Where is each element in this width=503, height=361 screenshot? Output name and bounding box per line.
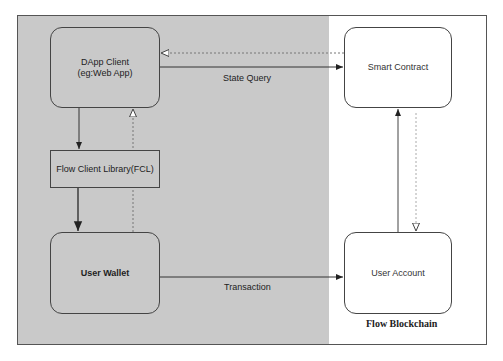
fcl-node: Flow Client Library(FCL) (50, 150, 160, 188)
user-account-label: User Account (371, 268, 425, 279)
user-account-node: User Account (344, 232, 452, 314)
user-wallet-label: User Wallet (81, 268, 130, 279)
fcl-label: Flow Client Library(FCL) (56, 164, 154, 175)
flow-blockchain-title: Flow Blockchain (366, 318, 437, 329)
smart-contract-label: Smart Contract (368, 62, 429, 73)
dapp-client-sublabel: (eg:Web App) (78, 68, 133, 79)
state-query-label: State Query (223, 73, 271, 83)
user-wallet-node: User Wallet (50, 232, 160, 314)
dapp-client-label: DApp Client (81, 57, 129, 68)
smart-contract-node: Smart Contract (344, 27, 452, 108)
transaction-label: Transaction (224, 282, 271, 292)
dapp-client-node: DApp Client (eg:Web App) (50, 27, 160, 108)
